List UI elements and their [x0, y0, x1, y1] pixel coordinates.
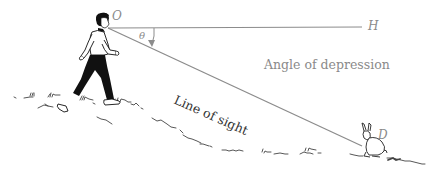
point-d-label: D	[378, 128, 388, 142]
angle-theta-label: θ	[139, 30, 145, 41]
arc-arrowhead-icon	[148, 40, 155, 47]
horizontal-line	[108, 27, 362, 28]
point-h-label: H	[368, 19, 378, 33]
point-o-label: O	[112, 9, 122, 23]
angle-of-depression-diagram: O H θ D Angle of depression Line of sigh…	[0, 0, 442, 179]
angle-of-depression-label: Angle of depression	[264, 57, 390, 72]
